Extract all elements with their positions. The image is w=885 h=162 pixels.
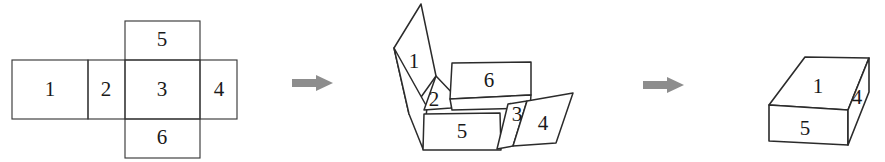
net-diagram: 1 2 3 4 5 6 — [12, 21, 237, 158]
arrow-right-icon — [292, 75, 333, 91]
net-label-3: 3 — [157, 77, 168, 101]
net-label-4: 4 — [214, 77, 225, 101]
fold-label-3: 3 — [512, 102, 523, 126]
arrow-right-icon — [643, 77, 684, 93]
fold-label-5: 5 — [457, 119, 468, 143]
net-label-2: 2 — [101, 77, 112, 101]
arrow-1 — [292, 75, 333, 91]
folding-diagram: 1 2 6 5 3 4 — [394, 4, 573, 150]
cube-diagram: 1 4 5 — [769, 57, 869, 145]
net-label-5: 5 — [157, 27, 168, 51]
net-label-1: 1 — [45, 77, 56, 101]
cube-label-5: 5 — [800, 116, 811, 140]
arrow-2 — [643, 77, 684, 93]
cube-label-4: 4 — [852, 85, 863, 109]
fold-label-4: 4 — [538, 111, 549, 135]
fold-label-2: 2 — [429, 87, 440, 111]
figure-canvas: 1 2 3 4 5 6 — [0, 0, 885, 162]
cube-folding-figure: 1 2 3 4 5 6 — [0, 0, 885, 162]
cube-label-1: 1 — [813, 74, 824, 98]
fold-label-1: 1 — [409, 49, 420, 73]
net-label-6: 6 — [157, 125, 168, 149]
fold-label-6: 6 — [484, 68, 495, 92]
